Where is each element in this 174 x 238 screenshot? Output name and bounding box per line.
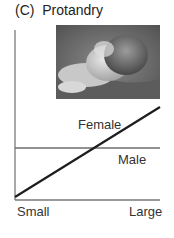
x-tick-large: Large — [129, 204, 162, 219]
female-label: Female — [78, 117, 121, 132]
male-label: Male — [118, 152, 146, 167]
x-tick-small: Small — [17, 204, 50, 219]
